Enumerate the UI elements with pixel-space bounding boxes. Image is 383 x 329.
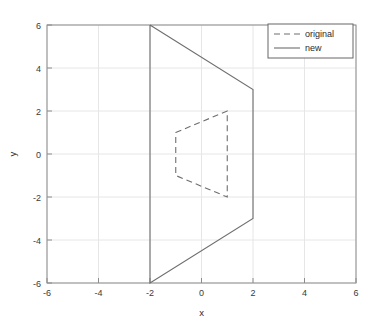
y-axis-title: y — [7, 151, 18, 156]
y-tick-label-4: -2 — [33, 193, 41, 203]
y-tick-label-0: 6 — [36, 21, 41, 31]
y-tick-label-2: 2 — [36, 107, 41, 117]
legend[interactable]: original new — [268, 24, 353, 58]
x-tick-label-5: 4 — [302, 288, 307, 298]
y-tick-label-6: -6 — [33, 279, 41, 289]
x-tick-label-1: -4 — [94, 288, 102, 298]
x-tick-label-4: 2 — [250, 288, 255, 298]
legend-label-new: new — [305, 43, 322, 53]
x-tick-label-6: 6 — [353, 288, 358, 298]
legend-label-original: original — [305, 29, 334, 39]
x-tick-label-2: -2 — [146, 288, 154, 298]
y-tick-label-3: 0 — [36, 150, 41, 160]
figure-canvas: -6 -4 -2 0 2 4 6 6 4 2 0 -2 -4 -6 x y or… — [0, 0, 383, 329]
x-axis-title: x — [199, 307, 204, 318]
x-tick-label-0: -6 — [43, 288, 51, 298]
chart-plot: -6 -4 -2 0 2 4 6 6 4 2 0 -2 -4 -6 x y or… — [0, 0, 383, 329]
y-tick-label-5: -4 — [33, 236, 41, 246]
y-tick-label-1: 4 — [36, 64, 41, 74]
x-tick-label-3: 0 — [199, 288, 204, 298]
